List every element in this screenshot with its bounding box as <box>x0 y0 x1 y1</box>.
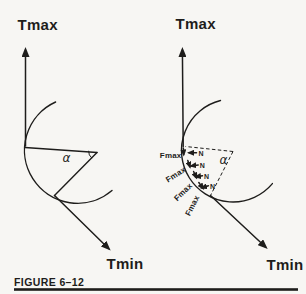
figure-6-12-canvas: Tmax α Tmin Tmax α Tmin <box>0 0 306 294</box>
caption-rule <box>14 288 298 291</box>
right-tmax-axis <box>182 50 183 147</box>
left-tmax-label: Tmax <box>18 16 59 33</box>
figure-caption: FIGURE 6–12 <box>14 276 84 288</box>
left-radius-horizontal <box>25 148 97 153</box>
right-alpha-label: α <box>220 153 228 167</box>
fmax-labels: Fmax Fmax Fmax Fmax <box>160 151 202 218</box>
n-labels: N N N N <box>198 150 215 190</box>
fmax-label-4: Fmax <box>184 194 202 218</box>
fmax-label-2: Fmax <box>164 165 187 185</box>
normal-arrow-4 <box>202 186 208 188</box>
right-tmin-arrow <box>211 196 266 248</box>
n-label-1: N <box>198 150 203 157</box>
normal-arrow-3 <box>196 176 203 177</box>
left-tmin-label: Tmin <box>107 255 144 272</box>
left-radius-to-tangent <box>55 153 98 196</box>
friction-arrow-2 <box>188 161 190 167</box>
n-label-3: N <box>204 173 209 180</box>
right-tmax-label: Tmax <box>176 15 217 32</box>
fmax-label-1: Fmax <box>160 151 182 160</box>
left-diagram: Tmax α Tmin <box>18 16 144 273</box>
caption-block: FIGURE 6–12 <box>14 276 298 291</box>
right-diagram: Tmax α Tmin N N N N Fmax <box>160 15 304 274</box>
n-label-2: N <box>200 162 205 169</box>
normal-arrow-2 <box>191 165 198 166</box>
right-dashed-radius-top <box>186 147 234 152</box>
n-label-4: N <box>210 183 215 190</box>
left-alpha-label: α <box>63 151 71 165</box>
right-tmin-label: Tmin <box>267 256 304 273</box>
